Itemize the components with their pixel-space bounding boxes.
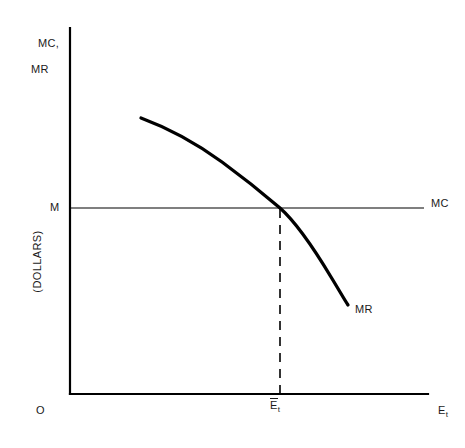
equilibrium-x-label-subscript: t bbox=[278, 405, 280, 414]
x-axis-title: Et bbox=[438, 404, 448, 421]
y-axis-top-label-line2: MR bbox=[31, 63, 59, 76]
mr-curve-line bbox=[141, 118, 348, 305]
x-axis-title-base: E bbox=[438, 404, 446, 416]
mc-mr-diagram bbox=[0, 0, 465, 448]
equilibrium-x-label-base: E bbox=[270, 398, 278, 411]
price-level-label: M bbox=[50, 201, 60, 214]
x-axis-title-subscript: t bbox=[446, 410, 448, 419]
y-axis-title: (DOLLARS) bbox=[31, 217, 44, 307]
y-axis-top-label: MC, MR bbox=[31, 24, 59, 89]
y-axis-top-label-line1: MC, bbox=[38, 37, 59, 49]
mc-curve-label: MC bbox=[431, 197, 449, 210]
equilibrium-x-label: Et bbox=[270, 398, 280, 416]
origin-label: O bbox=[36, 404, 45, 417]
mr-curve-label: MR bbox=[355, 303, 373, 316]
